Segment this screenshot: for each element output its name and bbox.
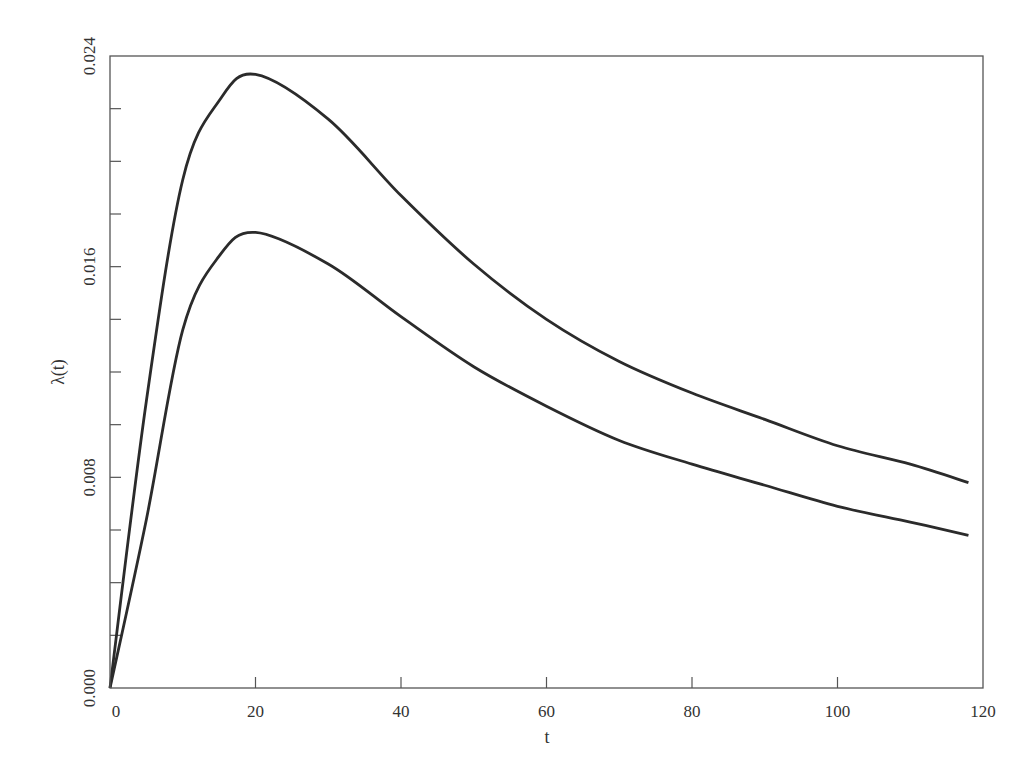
y-tick-label: 0.016: [80, 248, 99, 286]
x-tick-label: 40: [393, 702, 410, 721]
upper-curve: [110, 74, 968, 688]
y-tick-label: 0.000: [80, 669, 99, 707]
x-tick-label: 120: [970, 702, 996, 721]
x-tick-label: 0: [112, 702, 121, 721]
tick-labels: 0204060801001200.0000.0080.0160.024: [80, 36, 996, 721]
x-tick-label: 20: [247, 702, 264, 721]
x-tick-label: 100: [825, 702, 851, 721]
plot-lines: [110, 74, 968, 688]
x-tick-label: 80: [684, 702, 701, 721]
x-tick-label: 60: [538, 702, 555, 721]
plot-frame: [110, 56, 983, 688]
y-tick-label: 0.008: [80, 458, 99, 496]
y-tick-label: 0.024: [80, 36, 99, 75]
axis-ticks: [110, 109, 838, 688]
hazard-chart: 0204060801001200.0000.0080.0160.024 t λ(…: [0, 0, 1035, 776]
lower-curve: [110, 232, 968, 688]
y-axis-title: λ(t): [48, 359, 69, 385]
x-axis-title: t: [544, 727, 549, 747]
